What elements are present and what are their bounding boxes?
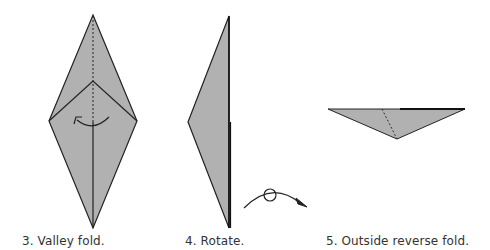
step-3-diagram bbox=[49, 15, 137, 228]
step-4-caption: 4. Rotate. bbox=[185, 234, 244, 248]
step-5-caption: 5. Outside reverse fold. bbox=[326, 234, 469, 248]
origami-diagram-canvas bbox=[0, 0, 490, 250]
step-4-diagram bbox=[188, 16, 307, 228]
flattened-triangle-shape bbox=[328, 109, 465, 139]
step-5-diagram bbox=[328, 109, 465, 139]
rotate-icon bbox=[244, 189, 307, 208]
folded-flat-shape bbox=[188, 16, 229, 228]
step-3-caption: 3. Valley fold. bbox=[22, 234, 105, 248]
